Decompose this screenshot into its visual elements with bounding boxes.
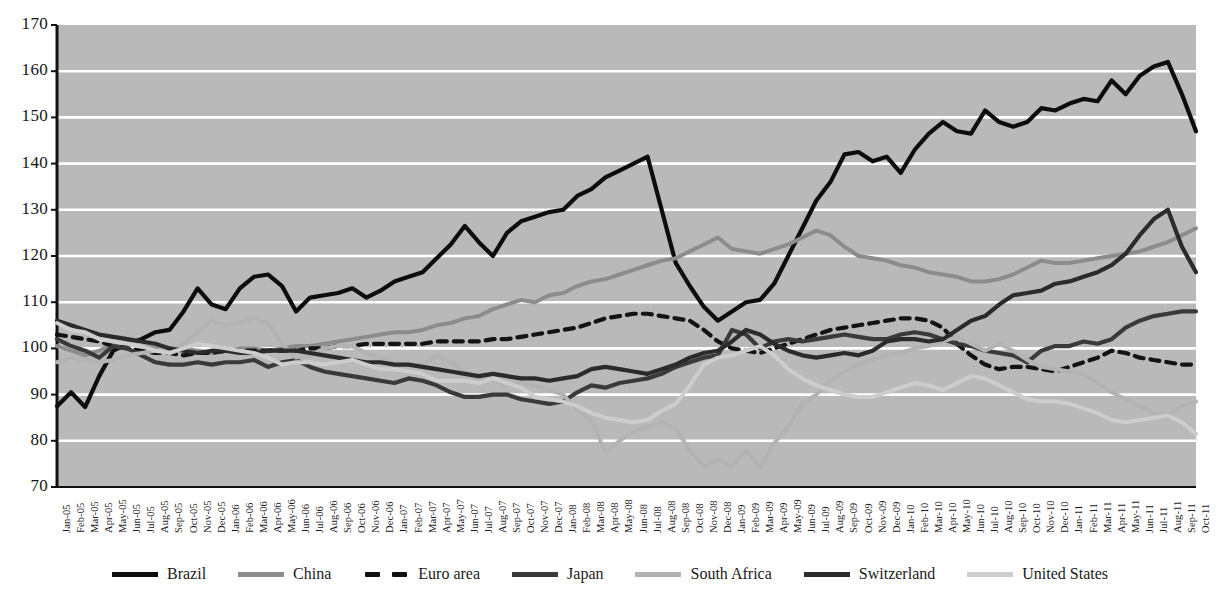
- x-axis-label: Jul-10: [989, 506, 1000, 533]
- x-axis-label: Jul-05: [145, 506, 156, 533]
- y-axis-label: 130: [4, 199, 48, 219]
- legend-item-south-africa[interactable]: South Africa: [635, 565, 771, 583]
- legend-item-japan[interactable]: Japan: [512, 565, 603, 583]
- x-axis-label: Dec-07: [553, 501, 564, 533]
- x-axis-label: Feb-08: [581, 503, 592, 533]
- x-axis-label: Apr-11: [1116, 503, 1127, 533]
- legend-item-united-states[interactable]: United States: [967, 565, 1108, 583]
- x-axis-label: Apr-09: [778, 502, 789, 533]
- x-axis-label: Jan-09: [736, 504, 747, 533]
- legend-swatch-icon: [967, 572, 1013, 577]
- legend-swatch-icon: [112, 572, 158, 577]
- legend-label: Japan: [567, 565, 603, 583]
- x-axis-label: Apr-05: [103, 502, 114, 533]
- x-axis-label: Aug-05: [159, 500, 170, 533]
- x-axis-label: Aug-08: [666, 500, 677, 533]
- legend-swatch-icon: [512, 572, 558, 577]
- x-axis-label: Mar-09: [764, 501, 775, 533]
- x-axis-label: Sep-10: [1017, 503, 1028, 533]
- x-axis-label: Dec-05: [216, 501, 227, 533]
- legend-item-euro-area[interactable]: Euro area: [363, 565, 480, 583]
- x-axis-label: Apr-06: [272, 502, 283, 533]
- x-axis-label: Aug-09: [834, 500, 845, 533]
- chart-figure: 708090100110120130140150160170 Jan-05Feb…: [0, 0, 1220, 603]
- y-axis-label: 160: [4, 60, 48, 80]
- x-axis-label: Aug-10: [1003, 500, 1014, 533]
- legend-label: Switzerland: [859, 565, 935, 583]
- x-axis-label: Oct-10: [1031, 503, 1042, 533]
- x-axis-label: May-08: [623, 499, 634, 533]
- x-axis-label: Jun-08: [638, 504, 649, 533]
- x-axis-label: Feb-10: [919, 503, 930, 533]
- x-axis-label: Nov-07: [539, 500, 550, 533]
- x-axis-label: Oct-08: [694, 503, 705, 533]
- x-axis-label: Nov-09: [877, 500, 888, 533]
- x-axis-label: Jul-07: [483, 506, 494, 533]
- x-axis-label: Nov-05: [202, 500, 213, 533]
- x-axis-label: Oct-07: [525, 503, 536, 533]
- x-axis-label: Oct-11: [1200, 504, 1211, 533]
- x-axis-label: Mar-05: [89, 501, 100, 533]
- x-axis-label: Jun-10: [975, 504, 986, 533]
- x-axis-label: Dec-08: [722, 501, 733, 533]
- x-axis-label: Mar-07: [427, 501, 438, 533]
- x-axis-label: Oct-06: [356, 503, 367, 533]
- x-axis-label: Jun-09: [806, 504, 817, 533]
- x-axis-label: Feb-09: [750, 503, 761, 533]
- x-axis-label: Mar-08: [595, 501, 606, 533]
- x-axis-label: Feb-05: [75, 503, 86, 533]
- x-axis-label: Jan-07: [398, 504, 409, 533]
- y-axis-label: 140: [4, 153, 48, 173]
- x-axis-label: Mar-06: [258, 501, 269, 533]
- x-axis-label: Jul-09: [820, 506, 831, 533]
- legend-label: United States: [1022, 565, 1108, 583]
- x-axis-label: Mar-10: [933, 501, 944, 533]
- chart-legend: BrazilChinaEuro areaJapanSouth AfricaSwi…: [0, 552, 1220, 596]
- x-axis-label: Jun-07: [469, 504, 480, 533]
- x-axis-label: May-11: [1130, 500, 1141, 533]
- legend-label: China: [293, 565, 331, 583]
- y-axis-label: 90: [4, 384, 48, 404]
- x-axis-label: Jul-11: [1158, 507, 1169, 533]
- x-axis-label: May-05: [117, 499, 128, 533]
- legend-swatch-icon: [635, 572, 681, 577]
- x-axis-label: Aug-06: [328, 500, 339, 533]
- y-axis-label: 120: [4, 245, 48, 265]
- x-axis-label: Jan-06: [230, 504, 241, 533]
- x-axis-label: Apr-08: [609, 502, 620, 533]
- legend-item-china[interactable]: China: [238, 565, 331, 583]
- x-axis-label: Sep-06: [342, 503, 353, 533]
- y-axis-label: 100: [4, 337, 48, 357]
- x-axis-label: Feb-11: [1088, 503, 1099, 533]
- x-axis-label: May-06: [286, 499, 297, 533]
- legend-label: Euro area: [418, 565, 480, 583]
- x-axis-label: Dec-10: [1059, 501, 1070, 533]
- legend-item-switzerland[interactable]: Switzerland: [804, 565, 935, 583]
- legend-label: Brazil: [167, 565, 206, 583]
- y-axis-label: 150: [4, 106, 48, 126]
- x-axis-label: May-10: [961, 499, 972, 533]
- x-axis-label: Dec-09: [891, 501, 902, 533]
- y-axis-label: 80: [4, 430, 48, 450]
- legend-swatch-icon: [238, 572, 284, 577]
- legend-item-brazil[interactable]: Brazil: [112, 565, 206, 583]
- x-axis-label: Aug-11: [1172, 501, 1183, 533]
- y-axis-label: 170: [4, 14, 48, 34]
- x-axis-label: Apr-10: [947, 502, 958, 533]
- x-axis-label: Jun-11: [1144, 504, 1155, 533]
- x-axis-label: May-07: [455, 499, 466, 533]
- x-axis-label: Jun-06: [300, 504, 311, 533]
- x-axis-label: Oct-09: [863, 503, 874, 533]
- x-axis-label: Jan-10: [905, 504, 916, 533]
- x-axis-label: Jan-11: [1073, 505, 1084, 533]
- x-axis-label: Sep-05: [173, 503, 184, 533]
- x-axis-label: Apr-07: [441, 502, 452, 533]
- x-axis-label: Sep-07: [511, 503, 522, 533]
- x-axis-label: Sep-08: [680, 503, 691, 533]
- y-axis-label: 70: [4, 476, 48, 496]
- x-axis-label: Feb-06: [244, 503, 255, 533]
- x-axis-label: Sep-11: [1186, 503, 1197, 533]
- x-axis-label: May-09: [792, 499, 803, 533]
- x-axis-label: Jul-08: [652, 506, 663, 533]
- legend-swatch-icon: [804, 572, 850, 577]
